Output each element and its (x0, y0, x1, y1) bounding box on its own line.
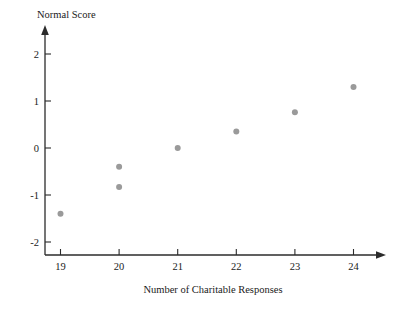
chart-canvas: 210-1-2 192021222324 Normal Score Number… (0, 0, 400, 309)
data-points-layer (58, 84, 357, 217)
x-tick-label: 21 (172, 261, 183, 272)
data-point (116, 164, 122, 170)
y-tick-label: -1 (30, 190, 39, 201)
y-tick-label: 2 (34, 49, 39, 60)
x-axis-ticks: 192021222324 (55, 249, 359, 272)
data-point (58, 211, 64, 217)
x-axis-title: Number of Charitable Responses (143, 284, 282, 295)
data-point (116, 184, 122, 190)
x-tick-label: 19 (55, 261, 66, 272)
x-tick-label: 22 (231, 261, 242, 272)
scatter-plot-figure: 210-1-2 192021222324 Normal Score Number… (0, 0, 400, 309)
data-point (351, 84, 357, 90)
data-point (175, 145, 181, 151)
x-tick-label: 23 (290, 261, 301, 272)
y-tick-label: 1 (34, 96, 39, 107)
y-tick-label: 0 (34, 143, 39, 154)
x-tick-label: 24 (348, 261, 359, 272)
y-axis-title: Normal Score (37, 9, 96, 20)
data-point (292, 109, 298, 115)
y-axis-arrow-icon (41, 25, 49, 35)
y-axis-ticks: 210-1-2 (30, 49, 51, 248)
data-point (233, 129, 239, 135)
x-axis-arrow-icon (376, 251, 386, 259)
y-axis-group (41, 25, 49, 255)
x-tick-label: 20 (114, 261, 125, 272)
x-axis-group (45, 251, 386, 259)
y-tick-label: -2 (30, 237, 39, 248)
